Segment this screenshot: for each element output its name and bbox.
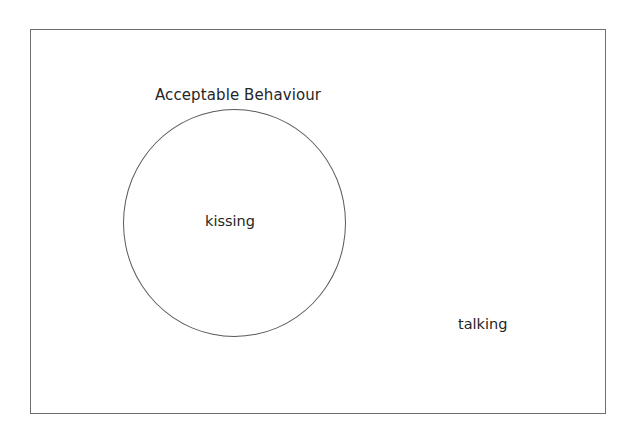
outside-item-talking: talking: [458, 317, 507, 332]
set-item-kissing: kissing: [205, 214, 255, 229]
set-title: Acceptable Behaviour: [155, 88, 321, 103]
